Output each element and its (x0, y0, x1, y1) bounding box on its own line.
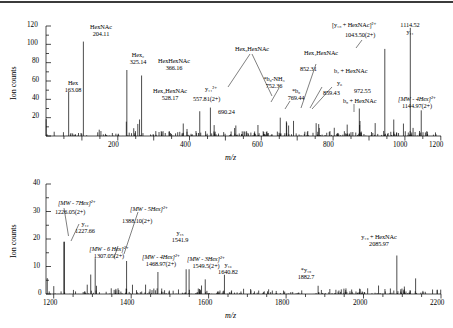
top-ytick-40: 40 (32, 95, 39, 103)
annotation-hex4hexnac-value: 852.31 (300, 66, 317, 73)
top-xtick-1000: 1000 (393, 142, 407, 150)
bottom-ytick-20: 20 (33, 235, 40, 243)
annotation-hexnac: HexNAc204.11 (78, 24, 124, 37)
bottom-ytick-40: 40 (33, 180, 40, 188)
annotation-mw-5hex-value: 1388.10(2+) (122, 218, 152, 225)
top-ytick-60: 60 (32, 77, 39, 85)
annotation-y6-value: 859.43 (323, 90, 340, 97)
annotation-y19-hexnac: y₁₉ + HexNAc2085.97 (340, 234, 418, 247)
annotation-b7-hexnac: b₇ + HexNAc (334, 68, 367, 75)
top-xtick-400: 400 (180, 142, 191, 150)
annotation-y12: y₁₂1227.66 (68, 221, 102, 234)
bottom-xtick-1200: 1200 (43, 300, 57, 308)
top-xtick-200: 200 (108, 142, 119, 150)
annotation-mw-4hex-top: [MW - 4Hex]²⁺1144.97(2+) (388, 96, 446, 109)
top-y-axis-title: Ion counts (10, 66, 18, 100)
bottom-xtick-1600: 1600 (198, 300, 212, 308)
annotation-b8-hexnac: b₈ + HexNAc (343, 98, 376, 105)
annotation-b8-hexnac-value: 972.55 (354, 88, 371, 95)
top-ytick-20: 20 (32, 113, 39, 121)
annotation-mw-5hex: [MW - 5Hex]²⁺ (118, 206, 180, 213)
annotation-y16: y₁₆1640.82 (209, 262, 247, 275)
annotation-hex: Hex163.08 (56, 80, 90, 93)
bottom-xtick-1800: 1800 (275, 300, 289, 308)
annotation-hex4hexnac: Hex₄HexNAc (290, 50, 352, 57)
annotation-y6: y₆ (337, 80, 342, 87)
spectrum-panel-top: Ion counts 120 100 80 60 40 20 200 400 6… (0, 8, 453, 166)
top-ytick-100: 100 (27, 40, 38, 48)
annotation-b9: *b₉769.44 (280, 88, 312, 101)
annotation-hex5hexnac-value: 690.24 (218, 109, 235, 116)
bottom-ytick-30: 30 (33, 208, 40, 216)
top-ytick-120: 120 (27, 22, 38, 30)
top-xtick-1200: 1200 (429, 142, 443, 150)
top-ytick-80: 80 (32, 58, 39, 66)
annotation-y10-hexnac-value: 1043.50(2+) (345, 32, 375, 39)
top-xtick-600: 600 (252, 142, 263, 150)
annotation-hexhexnac: HexHexNAc366.16 (144, 58, 204, 71)
bottom-y-axis-title: Ion counts (10, 224, 18, 258)
annotation-y11-top: 1114.52y₁₁ (392, 22, 428, 35)
annotation-y11-2plus-value: 557.81(2+) (193, 96, 220, 103)
annotation-y19-star: *y₁₉1882.7 (290, 267, 322, 280)
annotation-hex3hexnac: Hex₃HexNAc528.17 (141, 88, 199, 101)
annotation-mw-7hex-value: 1226.05(2+) (55, 209, 85, 216)
bottom-ytick-0: 0 (38, 290, 42, 298)
spectrum-panel-bottom: Ion counts 40 30 20 10 0 1200 1400 1600 … (0, 168, 453, 326)
bottom-xtick-1400: 1400 (120, 300, 134, 308)
top-xtick-800: 800 (323, 142, 334, 150)
annotation-hex5hexnac: Hex₅HexNAc (218, 46, 286, 53)
annotation-y15: y₁₅1541.9 (163, 230, 197, 243)
bottom-xtick-2200: 2200 (430, 300, 444, 308)
annotation-y10-hexnac: [y₁₀ + HexNAc]²⁺ (332, 22, 376, 29)
bottom-xtick-2000: 2000 (353, 300, 367, 308)
top-x-axis-title: m/z (225, 154, 236, 162)
annotation-y11-2plus: y₁₁²⁺ (205, 86, 217, 93)
bottom-ytick-10: 10 (33, 263, 40, 271)
bottom-x-axis-title: m/z (225, 312, 236, 320)
header-rule (0, 1, 453, 3)
annotation-mw-7hex: [MW - 7Hex]²⁺ (58, 200, 96, 207)
